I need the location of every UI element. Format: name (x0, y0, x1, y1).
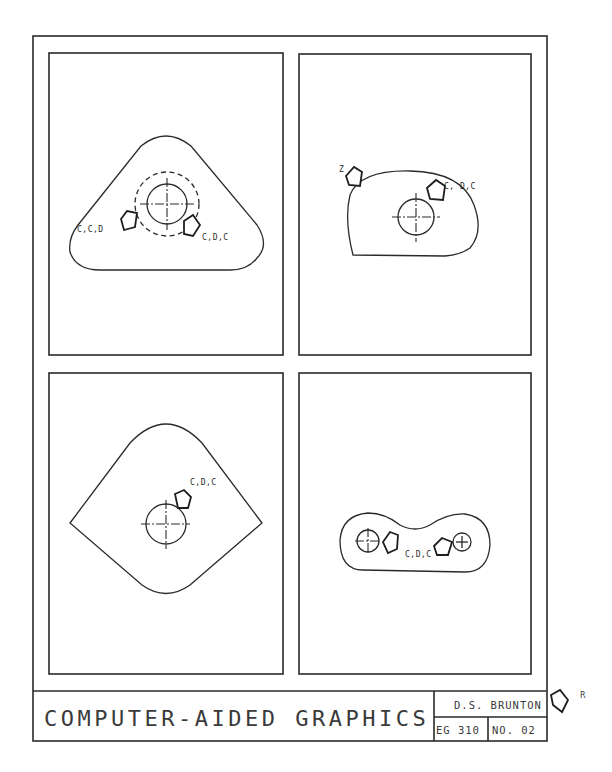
rotation-marker-label: R (580, 691, 586, 700)
label-ccd: C,C,D (77, 225, 104, 234)
machining-arrow-icon (121, 211, 137, 230)
rotation-arrow-icon (551, 690, 568, 712)
label-cdc: C,D,C (405, 550, 432, 559)
sheet-number: NO. 02 (492, 724, 536, 736)
panel-top-right-part: Z C, D,C (339, 165, 478, 256)
outer-border (33, 36, 547, 741)
machining-arrow-icon (383, 532, 398, 553)
machining-arrow-icon (184, 215, 200, 236)
panel-bottom-right-part: C,D,C (340, 513, 490, 572)
machining-arrow-icon (434, 538, 452, 555)
label-cdc: C,D,C (190, 478, 217, 487)
sheet-title: COMPUTER-AIDED GRAPHICS (44, 706, 429, 731)
panel-top-left-part: C,C,D C,D,C (70, 136, 264, 270)
drawing-sheet: COMPUTER-AIDED GRAPHICS D.S. BRUNTON EG … (0, 0, 612, 772)
course-code: EG 310 (436, 724, 480, 736)
panel-top-right-frame (299, 54, 531, 355)
triangle-profile (70, 136, 264, 270)
panel-bottom-right-frame (299, 373, 531, 674)
machining-arrow-icon (175, 490, 191, 508)
machining-arrow-icon (427, 180, 445, 200)
label-cdc: C, D,C (444, 182, 476, 191)
label-z: Z (339, 165, 344, 174)
author-name: D.S. BRUNTON (454, 699, 542, 711)
panel-bottom-left-part: C,D,C (70, 424, 262, 594)
machining-arrow-icon (346, 167, 362, 186)
label-cdc: C,D,C (202, 233, 229, 242)
